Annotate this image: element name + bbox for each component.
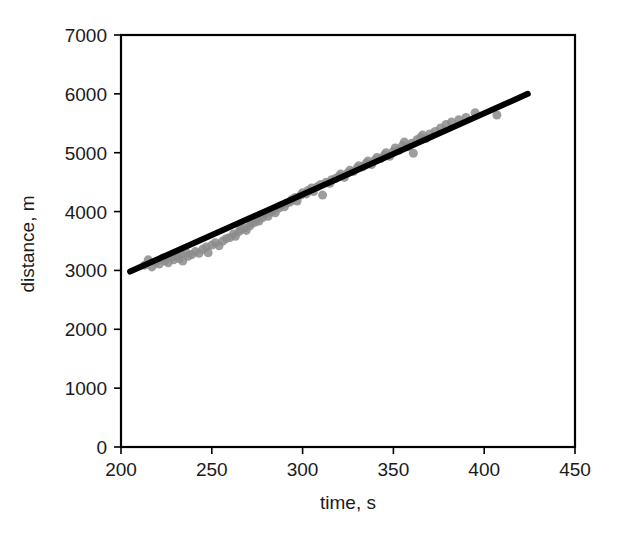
y-tick-label: 4000 — [65, 202, 107, 223]
x-tick-label: 400 — [468, 459, 500, 480]
y-tick-label: 2000 — [65, 319, 107, 340]
y-tick-label: 3000 — [65, 260, 107, 281]
y-tick-label: 0 — [96, 437, 107, 458]
x-tick-label: 450 — [559, 459, 591, 480]
y-axis-title: distance, m — [17, 195, 38, 292]
x-tick-label: 250 — [196, 459, 228, 480]
data-point — [204, 248, 213, 257]
x-tick-label: 200 — [105, 459, 137, 480]
x-tick-label: 350 — [378, 459, 410, 480]
y-tick-label: 5000 — [65, 143, 107, 164]
x-axis-title: time, s — [320, 492, 376, 513]
data-point — [409, 149, 418, 158]
x-tick-label: 300 — [287, 459, 319, 480]
scatter-plot-canvas: 200250300350400450 010002000300040005000… — [0, 0, 622, 546]
y-tick-label: 1000 — [65, 378, 107, 399]
data-point — [318, 191, 327, 200]
chart-figure: 200250300350400450 010002000300040005000… — [0, 0, 622, 546]
y-tick-label: 7000 — [65, 25, 107, 46]
y-tick-label: 6000 — [65, 84, 107, 105]
